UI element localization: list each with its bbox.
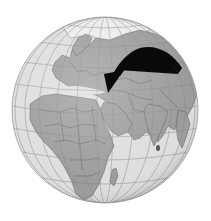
globe-shading bbox=[12, 17, 198, 203]
globe-map bbox=[0, 0, 211, 221]
